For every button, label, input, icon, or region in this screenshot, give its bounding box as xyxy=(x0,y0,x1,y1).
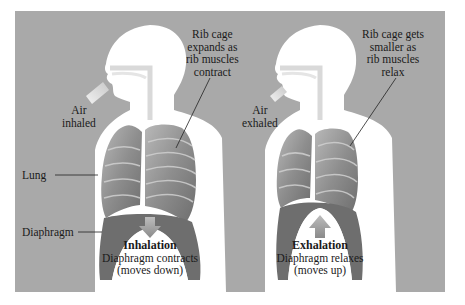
exhalation-caption: Exhalation Diaphragm relaxes (moves up) xyxy=(253,239,387,277)
air-inhaled-label: Air inhaled xyxy=(62,104,96,129)
air-exhaled-label: Air exhaled xyxy=(242,104,278,129)
inhalation-title: Inhalation xyxy=(83,239,217,252)
lung-label: Lung xyxy=(22,169,46,182)
lung-right xyxy=(315,128,358,214)
inhalation-caption: Inhalation Diaphragm contracts (moves do… xyxy=(83,239,217,277)
rib-cage-label-inhalation: Rib cage expands as rib muscles contract xyxy=(186,28,239,78)
rib-cage-label-exhalation: Rib cage gets smaller as rib muscles rel… xyxy=(362,28,424,78)
exhalation-title: Exhalation xyxy=(253,239,387,252)
diaphragm-label: Diaphragm xyxy=(22,226,74,239)
air-stream-icon xyxy=(86,82,109,104)
